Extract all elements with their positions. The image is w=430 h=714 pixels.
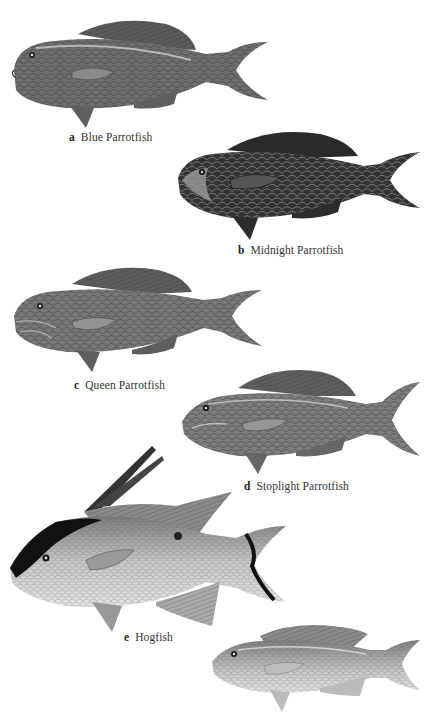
species-name: Queen Parrotfish <box>85 379 165 391</box>
species-name: Blue Parrotfish <box>81 131 152 143</box>
figure-letter: e <box>124 631 129 643</box>
fish-illustration-midnight-parrotfish <box>172 124 422 242</box>
figure-letter: c <box>74 379 79 391</box>
fish-illustration-unlabeled <box>210 616 424 714</box>
fish-illustration-hogfish <box>6 442 290 636</box>
caption-midnight-parrotfish: bMidnight Parrotfish <box>238 244 343 256</box>
species-name: Hogfish <box>135 631 173 643</box>
figure-letter: b <box>238 244 245 256</box>
fish-illustration-queen-parrotfish <box>8 262 270 374</box>
figure-letter: a <box>69 131 75 143</box>
fish-plate: aBlue Parrotfish bMidnight Parrotfish <box>0 0 430 714</box>
species-name: Midnight Parrotfish <box>251 244 344 256</box>
caption-queen-parrotfish: cQueen Parrotfish <box>74 379 165 391</box>
caption-blue-parrotfish: aBlue Parrotfish <box>69 131 152 143</box>
caption-hogfish: eHogfish <box>124 631 173 643</box>
fish-illustration-blue-parrotfish <box>6 12 276 130</box>
